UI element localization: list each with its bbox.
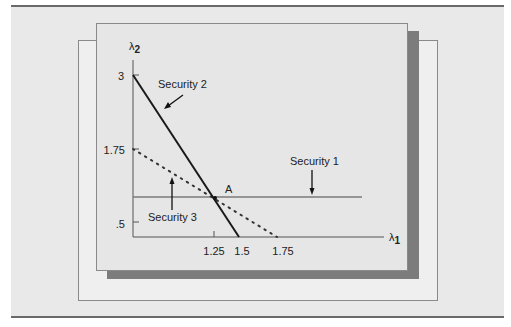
security3-label: Security 3: [148, 211, 197, 223]
y-tick-label-175: 1.75: [104, 144, 125, 156]
x-tick-label-125: 1.25: [203, 245, 224, 257]
chart-svg: λ2 λ1 3 1.75 .5 1.25 1.5 1.75 Security 2…: [0, 0, 511, 327]
security1-arrowhead: [310, 188, 315, 195]
security3-arrowhead: [170, 177, 175, 184]
security2-arrowhead: [164, 102, 171, 109]
x-tick-label-15: 1.5: [234, 245, 249, 257]
y-tick-label-3: 3: [118, 70, 124, 82]
security2-label: Security 2: [158, 78, 207, 90]
point-a-marker: [213, 196, 217, 200]
y-tick-label-05: .5: [116, 218, 125, 230]
x-axis-label: λ1: [389, 231, 401, 246]
point-a-label: A: [225, 183, 233, 195]
security3-line: [133, 149, 277, 237]
security2-arrow: [168, 95, 183, 106]
x-tick-label-175: 1.75: [272, 245, 293, 257]
security1-label: Security 1: [290, 155, 339, 167]
y-axis-label: λ2: [129, 40, 141, 55]
